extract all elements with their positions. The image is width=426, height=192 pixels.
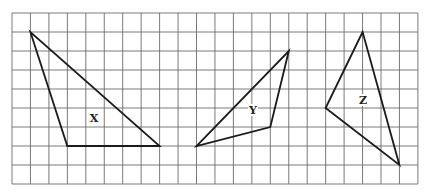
grid-lines [12, 13, 418, 184]
triangle-y [197, 51, 289, 146]
triangle-label-x: X [90, 112, 99, 125]
grid-diagram: XYZ [0, 0, 426, 192]
triangle-label-z: Z [359, 94, 367, 107]
triangle-label-y: Y [248, 104, 257, 117]
